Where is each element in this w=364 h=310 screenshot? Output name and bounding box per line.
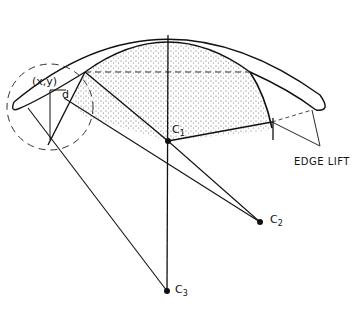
c3-point [164, 288, 170, 294]
edge-lift-vertical [312, 110, 320, 146]
line-c1-c2 [168, 141, 260, 222]
lens-left-tip [13, 102, 18, 110]
edge-lift-diagonal [272, 122, 320, 146]
c1-point [165, 138, 171, 144]
edge-dashed [272, 110, 312, 122]
edge-lift-label: EDGE LIFT [294, 157, 350, 167]
line-left-c3 [28, 108, 167, 291]
distance-label: d [62, 89, 69, 100]
c1-label: C1 [172, 124, 185, 138]
lens-edge-lift-diagram: (x,y) d C1 C2 C3 EDGE LIFT [0, 0, 364, 310]
c2-label: C2 [270, 214, 283, 228]
c2-point [257, 219, 263, 225]
point-label: (x,y) [32, 76, 57, 87]
c3-label: C3 [175, 284, 188, 298]
diagram-drawing [0, 0, 364, 310]
